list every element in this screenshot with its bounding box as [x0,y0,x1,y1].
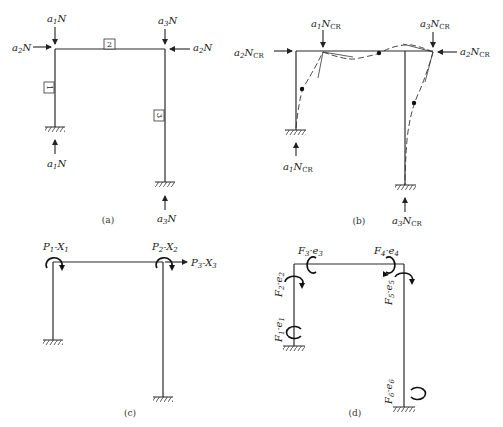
buckled-shape [296,45,433,185]
action-label-p3x3: P3-X3 [190,257,217,270]
moment-arrow-icon [156,258,172,268]
load-label-a2Ncr-right: a2NCR [460,46,491,59]
load-label-a3Ncr-bottom: a3NCR [392,215,423,228]
frame-a [55,49,165,182]
load-label-a1N-bottom: a1N [47,158,67,171]
member-label-1: 1 [44,82,54,93]
fixed-support-icon [155,182,175,187]
load-label-a3N-top: a3N [158,15,178,28]
panel-a: 2 1 3 a1N a2N a3N a2N a1N a3N (a) [12,13,213,226]
buckled-shape-solid [318,44,433,82]
portal-frame-figure: 2 1 3 a1N a2N a3N a2N a1N a3N (a) [0,0,503,427]
member-label-3: 3 [154,110,164,121]
panel-d: F3·e3 F4·e4 F2·e2 F1·e1 F5·e5 F6·e6 (d) [273,245,425,418]
fixed-support-icon [393,407,415,412]
fixed-support-icon [153,397,173,402]
member-label-2: 2 [104,39,115,49]
panel-c: P1-X1 P2-X2 P3-X3 (c) [42,241,217,418]
action-label-f4e4: F4·e4 [373,245,399,258]
svg-text:3: 3 [155,113,164,118]
load-label-a2Ncr-left: a2NCR [234,47,265,60]
fixed-support-icon [285,130,306,135]
load-label-a2N-right: a2N [193,42,213,55]
action-label-f3e3: F3·e3 [297,245,324,258]
caption-b: (b) [353,216,366,226]
moment-arrows-c [46,258,172,268]
moment-arrow-icon [386,257,395,273]
load-label-a2N-left: a2N [12,42,32,55]
moment-arrow-icon [46,258,62,268]
moment-arrow-icon [307,257,316,273]
inflection-point-icon [377,51,381,55]
fixed-support-icon [45,127,65,132]
inflection-points [300,51,416,105]
action-label-p1x1: P1-X1 [42,241,69,254]
inflection-point-icon [412,101,416,105]
caption-c: (c) [124,408,136,418]
fixed-support-icon [43,340,63,345]
frame-c [53,262,163,397]
load-label-a3Ncr-top: a3NCR [420,18,451,31]
moment-arrow-icon [411,388,425,400]
fixed-support-icon [395,185,416,190]
action-label-f1e1: F1·e1 [273,317,286,343]
load-label-a3N-bottom: a3N [157,213,177,226]
load-label-a1Ncr-bottom: a1NCR [283,161,314,174]
inflection-point-icon [300,87,304,91]
fixed-support-icon [283,346,305,351]
svg-text:2: 2 [107,40,112,49]
panel-b: a1NCR a2NCR a3NCR a2NCR a1NCR a3NCR (b) [234,18,491,228]
action-label-f6e6: F6·e6 [383,378,396,405]
load-arrows-b [274,30,457,212]
load-label-a1Ncr-top: a1NCR [311,18,342,31]
caption-a: (a) [102,215,114,225]
action-label-f5e5: F5·e5 [383,279,396,306]
svg-text:1: 1 [45,85,54,90]
action-label-p2x2: P2-X2 [151,241,178,254]
caption-d: (d) [349,408,362,418]
action-label-f2e2: F2·e2 [273,271,286,298]
frame-b [296,51,433,185]
load-label-a1N-top: a1N [47,13,67,26]
